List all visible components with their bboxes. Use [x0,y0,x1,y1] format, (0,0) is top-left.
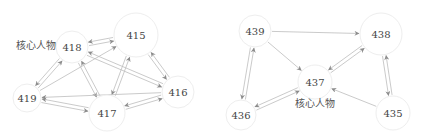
node-416: 416 [162,76,194,108]
node-label: 417 [97,108,116,119]
left-network-nodes: 415416417418419 [13,13,194,131]
edge-418-to-417 [78,63,96,97]
edge-415-to-418 [88,37,113,42]
edge-418-to-415 [89,41,114,46]
node-label: 435 [383,108,402,119]
node-435: 435 [376,96,410,130]
edge-419-to-417 [41,103,88,112]
node-label: 439 [245,26,264,37]
node-label: 415 [126,30,145,41]
network-diagram: 415416417418419 核心人物 435436437438439 核心人… [0,0,423,137]
node-419: 419 [13,84,41,112]
edge-436-to-437 [256,91,299,110]
edge-435-to-438 [386,55,392,94]
right-network-nodes: 435436437438439 [226,13,410,130]
node-label: 437 [305,77,324,88]
edge-416-to-415 [151,52,169,77]
core-person-label: 核心人物 [16,39,56,51]
node-437: 437 [298,65,332,99]
edge-437-to-438 [331,48,365,72]
edge-438-to-437 [328,45,362,69]
node-label: 436 [231,110,250,121]
node-439: 439 [239,15,271,47]
edge-415-to-417 [112,56,126,95]
node-label: 418 [62,42,81,53]
edge-415-to-416 [148,55,166,80]
node-415: 415 [114,13,158,57]
edge-419-to-418 [38,61,62,88]
node-438: 438 [360,13,402,55]
edge-439-to-437 [268,42,301,70]
node-436: 436 [226,100,256,130]
edge-436-to-439 [245,48,254,99]
core-person-label: 核心人物 [295,97,335,109]
right-network: 435436437438439 核心人物 [226,13,410,130]
edge-417-to-419 [42,99,89,108]
edge-417-to-418 [82,61,100,95]
edge-439-to-436 [242,47,251,98]
edge-439-to-438 [272,31,359,33]
left-network: 415416417418419 核心人物 [13,13,194,131]
node-label: 416 [168,87,187,98]
edge-438-to-435 [383,56,389,95]
node-417: 417 [89,95,125,131]
node-418: 418 [56,31,88,63]
edge-435-to-437 [332,89,377,107]
edge-417-to-415 [115,57,129,96]
node-label: 419 [17,93,36,104]
node-label: 438 [371,29,390,40]
edge-437-to-436 [255,88,298,107]
